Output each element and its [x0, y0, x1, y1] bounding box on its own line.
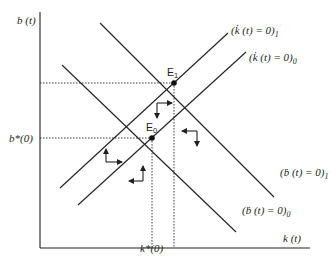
- svg-text:(ḃ (t) = 0)1: (ḃ (t) = 0)1: [280, 166, 328, 181]
- kdot-curve-1: [60, 33, 228, 188]
- direction-arrow-middle: [157, 103, 172, 118]
- phase-diagram: b (t) k (t) b*(0) k*(0) (k̇ (t) = 0)1 (k…: [0, 0, 331, 259]
- x-axis-label: k (t): [283, 232, 301, 245]
- bdot-curve-0-label: (ḃ (t) = 0)0: [242, 204, 290, 219]
- kdot-curve-0: [78, 52, 246, 205]
- bdot-curve-0: [62, 65, 236, 232]
- bdot-curve-1-label: (ḃ (t) = 0)1: [280, 166, 328, 181]
- bdot-curve-1: [100, 23, 274, 197]
- svg-text:(k̇ (t) = 0)0: (k̇ (t) = 0)0: [249, 51, 297, 66]
- kdot-curve-1-label: (k̇ (t) = 0)1: [231, 24, 279, 39]
- svg-text:(ḃ (t) = 0)0: (ḃ (t) = 0)0: [242, 204, 290, 219]
- direction-arrow-right: [182, 131, 197, 146]
- direction-arrow-left: [106, 149, 122, 162]
- y-axis-label: b (t): [17, 14, 36, 27]
- equilibrium-e0-point: [149, 135, 155, 141]
- b-star-label: b*(0): [9, 132, 33, 145]
- equilibrium-e1-label: E1: [167, 66, 178, 80]
- svg-text:(k̇ (t) = 0)1: (k̇ (t) = 0)1: [231, 24, 279, 39]
- k-star-label: k*(0): [140, 242, 164, 255]
- direction-arrow-bottom: [129, 166, 143, 181]
- equilibrium-e0-label: E0: [146, 121, 157, 135]
- equilibrium-e1-point: [171, 80, 177, 86]
- kdot-curve-0-label: (k̇ (t) = 0)0: [249, 51, 297, 66]
